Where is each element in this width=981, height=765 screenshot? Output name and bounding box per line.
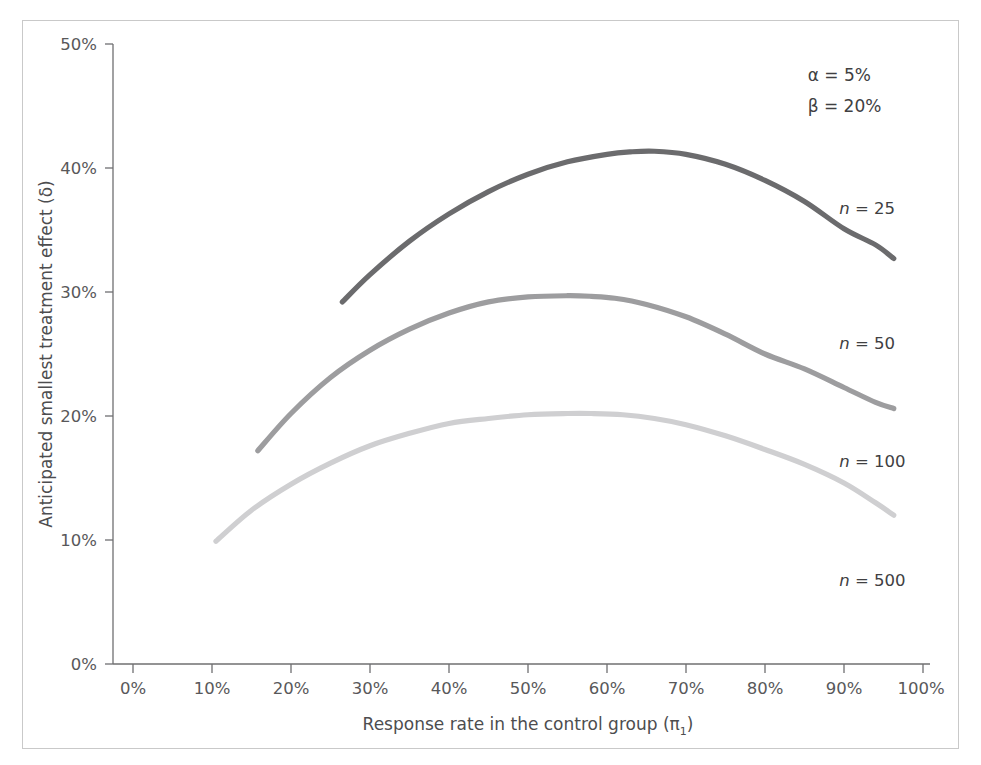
- series-label-n-50-value: = 50: [850, 334, 895, 353]
- y-tick-marks: [105, 44, 113, 664]
- x-tick-label-90: 90%: [826, 679, 863, 698]
- chart-canvas: 50% 40% 30% 20% 10% 0% 0% 10% 20% 30%: [0, 0, 981, 765]
- series-label-n-25-symbol: n: [839, 199, 849, 218]
- axes-group: [113, 44, 930, 664]
- y-tick-label-50: 50%: [60, 35, 97, 54]
- x-tick-label-60: 60%: [589, 679, 626, 698]
- x-axis-title-pi: π: [670, 714, 680, 734]
- series-label-n-50: n = 50: [839, 334, 895, 353]
- series-label-n-500-symbol: n: [839, 571, 849, 590]
- y-tick-label-10: 10%: [60, 531, 97, 550]
- y-tick-label-40: 40%: [60, 159, 97, 178]
- y-tick-labels: 50% 40% 30% 20% 10% 0%: [60, 35, 97, 674]
- x-tick-labels: 0% 10% 20% 30% 40% 50% 60% 70% 80% 90% 1…: [120, 679, 945, 698]
- x-tick-label-70: 70%: [668, 679, 705, 698]
- annotation-alpha: α = 5%: [808, 65, 871, 85]
- series-label-n-500-value: = 500: [850, 571, 906, 590]
- y-tick-label-30: 30%: [60, 283, 97, 302]
- y-tick-label-20: 20%: [60, 407, 97, 426]
- x-axis-title-subscript: 1: [680, 725, 687, 738]
- curve-n-100: [216, 413, 894, 541]
- x-tick-label-80: 80%: [747, 679, 784, 698]
- curve-n-25: [342, 151, 893, 302]
- y-axis-title: Anticipated smallest treatment effect (δ…: [36, 180, 56, 527]
- series-label-n-50-symbol: n: [839, 334, 849, 353]
- y-tick-label-0: 0%: [71, 655, 97, 674]
- x-tick-label-50: 50%: [510, 679, 547, 698]
- series-label-n-25: n = 25: [839, 199, 895, 218]
- x-tick-marks: [133, 664, 923, 673]
- x-tick-label-100: 100%: [897, 679, 944, 698]
- series-label-n-25-value: = 25: [850, 199, 895, 218]
- annotation-beta: β = 20%: [808, 96, 882, 116]
- x-axis-title: Response rate in the control group (π1): [363, 714, 694, 738]
- x-tick-label-30: 30%: [352, 679, 389, 698]
- series-label-n-100-symbol: n: [839, 452, 849, 471]
- x-tick-label-20: 20%: [273, 679, 310, 698]
- series-label-n-500: n = 500: [839, 571, 905, 590]
- x-axis-title-close: ): [687, 714, 694, 734]
- series-label-n-100-value: = 100: [850, 452, 906, 471]
- x-tick-label-0: 0%: [120, 679, 146, 698]
- parameter-annotations: α = 5% β = 20%: [808, 65, 882, 116]
- series-label-n-100: n = 100: [839, 452, 905, 471]
- x-axis-title-main: Response rate in the control group (: [363, 714, 670, 734]
- figure-container: 50% 40% 30% 20% 10% 0% 0% 10% 20% 30%: [0, 0, 981, 765]
- curve-n-50: [258, 296, 894, 451]
- x-tick-label-10: 10%: [194, 679, 231, 698]
- x-tick-label-40: 40%: [431, 679, 468, 698]
- series-curves: [0, 0, 894, 541]
